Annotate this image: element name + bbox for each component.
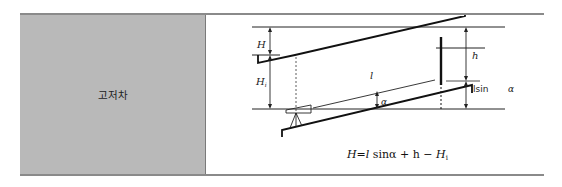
- label-l: l: [370, 70, 373, 81]
- sight-line: [313, 80, 435, 108]
- term-label: 고저차: [98, 87, 128, 102]
- label-h: h: [472, 50, 478, 61]
- height-difference-diagram: H Hi l h α lsin α H=l sinα + h − Hi: [206, 15, 544, 174]
- definition-table: 고저차: [20, 13, 544, 176]
- upper-ground-line: [258, 15, 465, 63]
- term-cell: 고저차: [20, 15, 206, 174]
- diagram-cell: H Hi l h α lsin α H=l sinα + h − Hi: [206, 15, 544, 174]
- label-alpha-left: α: [381, 97, 387, 107]
- label-H: H: [256, 39, 266, 50]
- label-Hi: Hi: [255, 76, 267, 88]
- formula: H=l sinα + h − Hi: [346, 148, 449, 162]
- label-lsin: lsin: [473, 84, 488, 94]
- label-alpha-right: α: [508, 84, 514, 94]
